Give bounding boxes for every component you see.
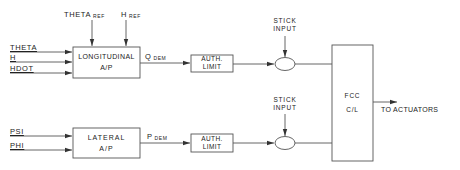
q-dem-main: Q bbox=[145, 52, 151, 61]
psi-input-label: PSI bbox=[10, 128, 24, 136]
auth-limit-lower-line1: AUTH. bbox=[191, 135, 233, 143]
h-ref-sub: REF bbox=[129, 13, 141, 19]
h-ref-label: HREF bbox=[121, 11, 141, 19]
to-actuators-label: TO ACTUATORS bbox=[381, 106, 438, 113]
h-input-label: H bbox=[10, 54, 16, 62]
longitudinal-label-line1: LONGITUDINAL bbox=[73, 52, 140, 63]
theta-ref-sub: REF bbox=[93, 13, 105, 19]
p-dem-label: PDEM bbox=[147, 133, 168, 141]
lateral-label-line2: A/P bbox=[73, 144, 140, 155]
summing-junction-lower bbox=[275, 137, 295, 150]
longitudinal-ap-label: LONGITUDINAL A/P bbox=[73, 52, 140, 74]
stick-upper-line1: STICK bbox=[265, 17, 305, 25]
auth-limit-upper-line2: LIMIT bbox=[191, 63, 233, 71]
auth-limit-upper-line1: AUTH. bbox=[191, 55, 233, 63]
auth-limit-label-lower: AUTH. LIMIT bbox=[191, 135, 233, 152]
q-dem-label: QDEM bbox=[145, 53, 166, 61]
theta-input-label: THETA bbox=[10, 44, 37, 52]
fcc-label-line1: FCC bbox=[332, 89, 373, 103]
stick-input-label-lower: STICK INPUT bbox=[265, 96, 305, 112]
stick-input-label-upper: STICK INPUT bbox=[265, 17, 305, 33]
hdot-input-label: HDOT bbox=[10, 65, 34, 73]
theta-ref-label: THETAREF bbox=[64, 11, 105, 19]
stick-lower-line2: INPUT bbox=[265, 104, 305, 112]
lateral-label-line1: LATERAL bbox=[73, 133, 140, 144]
fcc-cl-label: FCC C/L bbox=[332, 89, 373, 118]
phi-input-label: PHI bbox=[10, 142, 24, 150]
auth-limit-lower-line2: LIMIT bbox=[191, 143, 233, 151]
stick-upper-line2: INPUT bbox=[265, 25, 305, 33]
p-dem-sub: DEM bbox=[155, 135, 168, 141]
theta-ref-main: THETA bbox=[64, 10, 91, 19]
fcc-label-line2: C/L bbox=[332, 103, 373, 117]
longitudinal-label-line2: A/P bbox=[73, 63, 140, 74]
q-dem-sub: DEM bbox=[153, 55, 166, 61]
lateral-ap-label: LATERAL A/P bbox=[73, 133, 140, 155]
summing-junction-upper bbox=[275, 58, 295, 71]
p-dem-main: P bbox=[147, 132, 153, 141]
auth-limit-label-upper: AUTH. LIMIT bbox=[191, 55, 233, 72]
stick-lower-line1: STICK bbox=[265, 96, 305, 104]
h-ref-main: H bbox=[121, 10, 127, 19]
